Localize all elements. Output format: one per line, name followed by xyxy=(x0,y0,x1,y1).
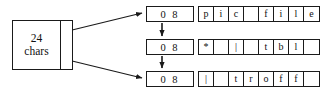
record-cell: l xyxy=(289,40,304,54)
record-cell: c xyxy=(229,7,244,21)
arrow-header-to-record-3 xyxy=(68,60,142,78)
record-cell: * xyxy=(199,40,214,54)
arrow-header-to-record-1 xyxy=(68,13,142,31)
record-cell xyxy=(244,7,259,21)
header-block: 24 chars xyxy=(12,20,73,70)
record-cell: t xyxy=(229,72,244,86)
record-cell: t xyxy=(259,40,274,54)
record-cell: l xyxy=(289,7,304,21)
record-cell xyxy=(214,72,229,86)
record-count-box: 0 8 xyxy=(146,6,194,22)
record-cell: f xyxy=(259,7,274,21)
record-cell: i xyxy=(274,7,289,21)
record-cell-strip: * | t b l xyxy=(198,39,320,55)
record-cell: o xyxy=(259,72,274,86)
record-cell: b xyxy=(274,40,289,54)
record-cell: | xyxy=(199,72,214,86)
header-block-label: 24 chars xyxy=(13,21,60,69)
record-cell: i xyxy=(214,7,229,21)
record-cell: f xyxy=(274,72,289,86)
record-count-box: 0 8 xyxy=(146,39,194,55)
record-cell: | xyxy=(229,40,244,54)
record-cell: r xyxy=(244,72,259,86)
record-cell xyxy=(214,40,229,54)
record-cell: p xyxy=(199,7,214,21)
record-layout-figure: 24 chars 0 8 p i c f i l e 0 8 * | t b l xyxy=(0,0,324,99)
record-cell: f xyxy=(289,72,304,86)
record-cell-strip: | t r o f f xyxy=(198,71,320,87)
record-count-box: 0 8 xyxy=(146,71,194,87)
record-cell xyxy=(304,40,319,54)
record-cell: e xyxy=(304,7,319,21)
record-cell xyxy=(304,72,319,86)
record-cell-strip: p i c f i l e xyxy=(198,6,320,22)
record-cell xyxy=(244,40,259,54)
header-block-divider xyxy=(60,21,61,69)
